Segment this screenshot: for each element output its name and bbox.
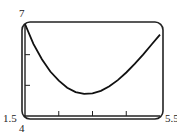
x-min-label: 1.5 (3, 113, 17, 124)
data-curve (25, 24, 160, 94)
chart-plot (0, 0, 177, 135)
plot-frame (22, 22, 163, 119)
y-max-label: 7 (19, 8, 25, 19)
y-min-label: 4 (19, 123, 25, 134)
x-max-label: 5.5 (165, 113, 177, 124)
